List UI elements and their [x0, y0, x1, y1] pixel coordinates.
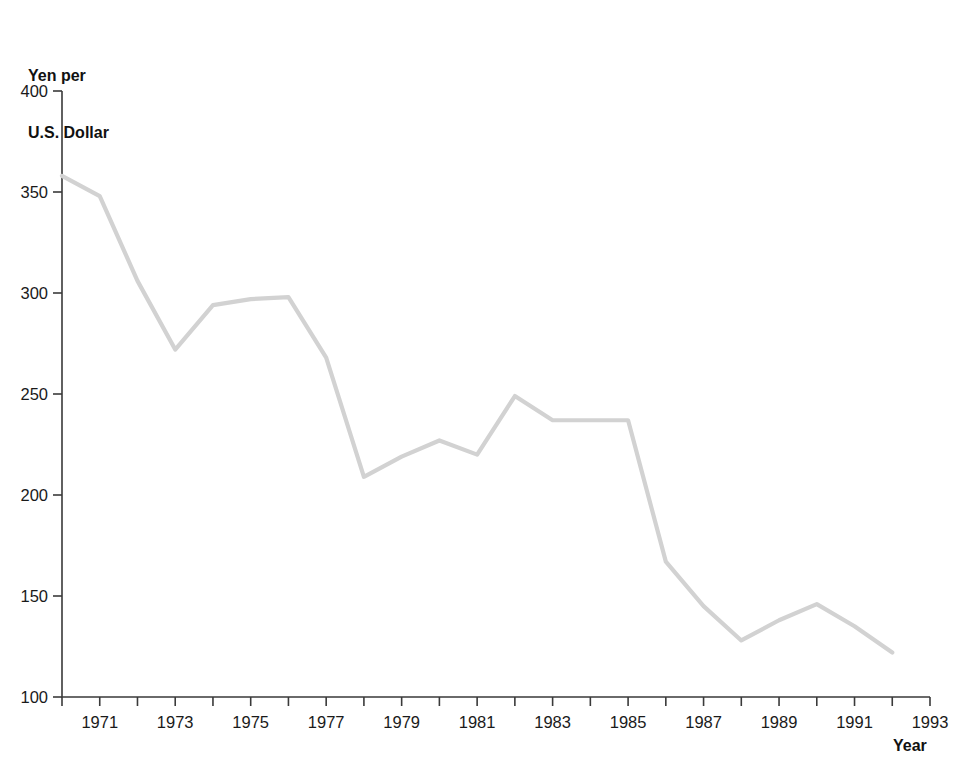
x-tick-label-1973: 1973: [157, 713, 194, 732]
y-tick-label-200: 200: [0, 486, 48, 505]
x-tick-label-1985: 1985: [610, 713, 647, 732]
x-tick-label-1993: 1993: [912, 713, 949, 732]
x-tick-label-1983: 1983: [534, 713, 571, 732]
x-tick-label-1979: 1979: [383, 713, 420, 732]
y-tick-label-250: 250: [0, 385, 48, 404]
x-axis-title: Year: [893, 736, 927, 755]
x-tick-label-1989: 1989: [761, 713, 798, 732]
x-tick-label-1991: 1991: [836, 713, 873, 732]
x-tick-label-1987: 1987: [685, 713, 722, 732]
y-tick-label-150: 150: [0, 587, 48, 606]
plot-area: [0, 0, 976, 771]
y-tick-label-300: 300: [0, 284, 48, 303]
axes-lines: [62, 91, 930, 697]
y-tick-label-350: 350: [0, 183, 48, 202]
x-tick-label-1975: 1975: [232, 713, 269, 732]
data-line-series: [62, 176, 892, 653]
x-tick-label-1971: 1971: [81, 713, 118, 732]
chart-figure: Yen per U.S. Dollar 10015020025030035040…: [0, 0, 976, 771]
x-tick-label-1977: 1977: [308, 713, 345, 732]
x-tick-label-1981: 1981: [459, 713, 496, 732]
y-tick-label-400: 400: [0, 82, 48, 101]
y-tick-label-100: 100: [0, 688, 48, 707]
